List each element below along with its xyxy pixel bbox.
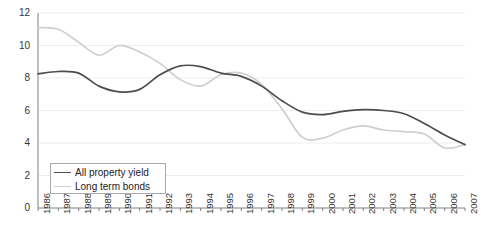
y-tick-label-4: 4	[8, 138, 30, 148]
x-tick-label-2000: 2000	[327, 193, 337, 214]
x-tick-label-1997: 1997	[266, 193, 276, 214]
x-tick-label-2001: 2001	[347, 193, 357, 214]
x-tick-label-1989: 1989	[103, 193, 113, 214]
y-tick-label-10: 10	[8, 41, 30, 51]
legend-swatch-all-property-yield	[54, 172, 71, 173]
line-chart: 121086420 198619871988198919901991199219…	[0, 0, 481, 249]
x-tick-label-2003: 2003	[388, 193, 398, 214]
x-tick-label-1986: 1986	[42, 193, 52, 214]
x-tick-label-2004: 2004	[408, 193, 418, 214]
legend-swatch-long-term-bonds	[54, 186, 71, 187]
x-tick-label-2006: 2006	[449, 193, 459, 214]
x-tick-label-1993: 1993	[184, 193, 194, 214]
x-tick-label-2005: 2005	[428, 193, 438, 214]
x-tick-label-1988: 1988	[83, 193, 93, 214]
x-tick-label-1991: 1991	[144, 193, 154, 214]
x-tick-label-1990: 1990	[123, 193, 133, 214]
x-tick-label-1992: 1992	[164, 193, 174, 214]
x-tick-label-2007: 2007	[469, 193, 479, 214]
y-tick-label-8: 8	[8, 73, 30, 83]
legend-label-all-property-yield: All property yield	[75, 167, 149, 178]
legend-item-long-term-bonds: Long term bonds	[54, 179, 150, 193]
y-tick-label-6: 6	[8, 106, 30, 116]
x-tick-label-1987: 1987	[62, 193, 72, 214]
x-tick-label-1995: 1995	[225, 193, 235, 214]
legend-label-long-term-bonds: Long term bonds	[75, 181, 150, 192]
x-tick-label-2002: 2002	[367, 193, 377, 214]
x-tick-label-1999: 1999	[306, 193, 316, 214]
y-tick-label-12: 12	[8, 8, 30, 18]
y-tick-label-2: 2	[8, 171, 30, 181]
x-tick-label-1996: 1996	[245, 193, 255, 214]
legend-item-all-property-yield: All property yield	[54, 165, 149, 179]
chart-legend: All property yield Long term bonds	[50, 163, 166, 194]
y-tick-label-0: 0	[8, 203, 30, 213]
x-tick-label-1998: 1998	[286, 193, 296, 214]
x-tick-label-1994: 1994	[205, 193, 215, 214]
